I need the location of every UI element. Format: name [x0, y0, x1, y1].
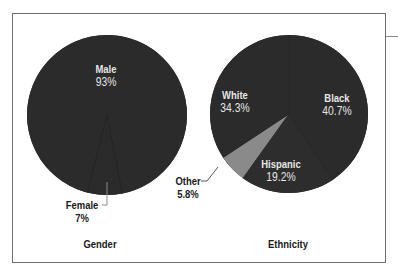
white-pct: 34.3% [220, 102, 249, 115]
male-pct: 93% [95, 76, 116, 89]
hispanic-label: Hispanic 19.2% [261, 158, 300, 184]
gender-title: Gender [83, 238, 116, 250]
chart-panel: Male 93% Female 7% Gender White 34.3% Bl… [0, 0, 398, 274]
white-label: White 34.3% [220, 89, 249, 115]
chart-canvas [0, 0, 398, 274]
black-label: Black 40.7% [322, 92, 351, 118]
black-pct: 40.7% [322, 105, 351, 118]
female-pct: 7% [66, 212, 99, 225]
male-label: Male 93% [95, 63, 116, 89]
other-leader-line [201, 167, 218, 181]
female-name: Female [66, 199, 99, 212]
ethnicity-title: Ethnicity [268, 238, 308, 250]
hispanic-pct: 19.2% [261, 171, 300, 184]
other-name: Other [175, 175, 200, 188]
female-label: Female 7% [66, 199, 99, 225]
gender-pie [27, 35, 187, 195]
other-label: Other 5.8% [175, 175, 200, 201]
other-pct: 5.8% [175, 188, 200, 201]
